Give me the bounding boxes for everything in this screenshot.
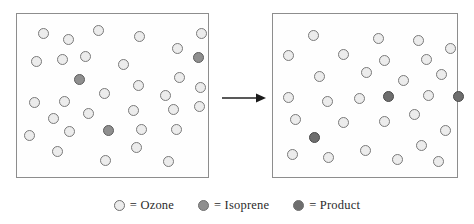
molecule-ozone	[409, 109, 420, 120]
molecule-ozone	[354, 93, 365, 104]
molecule-ozone	[290, 114, 301, 125]
molecule-ozone	[322, 96, 333, 107]
legend-item-ozone: = Ozone	[114, 199, 174, 212]
molecule-ozone	[283, 92, 294, 103]
molecule-isoprene	[74, 74, 85, 85]
molecule-ozone	[338, 117, 349, 128]
molecule-ozone	[423, 90, 434, 101]
molecule-ozone	[80, 51, 91, 62]
molecule-ozone	[52, 146, 63, 157]
molecule-ozone	[29, 97, 40, 108]
molecule-ozone	[445, 43, 456, 54]
molecule-ozone	[196, 28, 207, 39]
molecule-ozone	[163, 156, 174, 167]
legend-swatch-ozone-icon	[114, 200, 125, 211]
molecule-ozone	[436, 69, 447, 80]
molecule-ozone	[308, 30, 319, 41]
molecule-ozone	[440, 125, 451, 136]
molecule-isoprene	[193, 52, 204, 63]
molecule-ozone	[172, 43, 183, 54]
molecule-ozone	[93, 25, 104, 36]
molecule-legend: = Ozone= Isoprene= Product	[0, 192, 474, 218]
molecule-ozone	[361, 67, 372, 78]
molecule-ozone	[63, 34, 74, 45]
molecule-ozone	[59, 96, 70, 107]
legend-label-isoprene: = Isoprene	[214, 199, 269, 212]
molecule-ozone	[160, 90, 171, 101]
legend-swatch-product-icon	[293, 200, 304, 211]
molecule-ozone	[287, 149, 298, 160]
molecule-product	[453, 91, 464, 102]
molecule-ozone	[136, 124, 147, 135]
molecule-ozone	[100, 155, 111, 166]
molecule-ozone	[38, 28, 49, 39]
molecule-ozone	[24, 130, 35, 141]
molecule-product	[383, 91, 394, 102]
molecule-ozone	[64, 126, 75, 137]
before-box	[16, 13, 209, 178]
molecule-ozone	[338, 49, 349, 60]
reaction-arrow-icon	[222, 92, 266, 104]
molecule-product	[309, 132, 320, 143]
molecule-ozone	[360, 145, 371, 156]
molecule-ozone	[57, 54, 68, 65]
molecule-ozone	[118, 59, 129, 70]
molecule-ozone	[48, 113, 59, 124]
after-box	[272, 13, 458, 178]
diagram-canvas: = Ozone= Isoprene= Product	[0, 0, 474, 224]
molecule-ozone	[421, 54, 432, 65]
legend-item-product: = Product	[293, 199, 360, 212]
molecule-ozone	[131, 142, 142, 153]
molecule-ozone	[323, 152, 334, 163]
molecule-ozone	[433, 156, 444, 167]
molecule-ozone	[195, 82, 206, 93]
legend-label-ozone: = Ozone	[130, 199, 174, 212]
molecule-ozone	[413, 35, 424, 46]
molecule-ozone	[194, 101, 205, 112]
legend-swatch-isoprene-icon	[198, 200, 209, 211]
molecule-ozone	[314, 71, 325, 82]
molecule-ozone	[379, 116, 390, 127]
molecule-ozone	[398, 75, 409, 86]
molecule-ozone	[133, 80, 144, 91]
molecule-ozone	[99, 88, 110, 99]
molecule-ozone	[128, 105, 139, 116]
molecule-ozone	[168, 104, 179, 115]
molecule-isoprene	[103, 125, 114, 136]
molecule-ozone	[171, 124, 182, 135]
molecule-ozone	[416, 140, 427, 151]
molecule-ozone	[174, 72, 185, 83]
legend-item-isoprene: = Isoprene	[198, 199, 269, 212]
molecule-ozone	[373, 33, 384, 44]
molecule-ozone	[31, 56, 42, 67]
molecule-ozone	[134, 31, 145, 42]
molecule-ozone	[379, 55, 390, 66]
molecule-ozone	[392, 154, 403, 165]
molecule-ozone	[283, 50, 294, 61]
molecule-ozone	[83, 108, 94, 119]
legend-label-product: = Product	[309, 199, 360, 212]
